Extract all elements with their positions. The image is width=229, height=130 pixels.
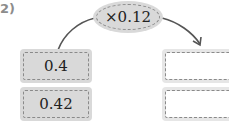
answer-box-1[interactable] [162, 49, 229, 83]
left-arc [58, 18, 95, 50]
answer-box-2[interactable] [162, 87, 229, 121]
operator-oval: ×0.12 [93, 1, 163, 33]
operator-label: ×0.12 [105, 8, 151, 26]
input-box-2: 0.42 [20, 87, 92, 121]
right-arc-arrow [162, 18, 200, 44]
input-value-1: 0.4 [44, 57, 68, 75]
input-box-1: 0.4 [20, 49, 92, 83]
input-value-2: 0.42 [39, 95, 72, 113]
